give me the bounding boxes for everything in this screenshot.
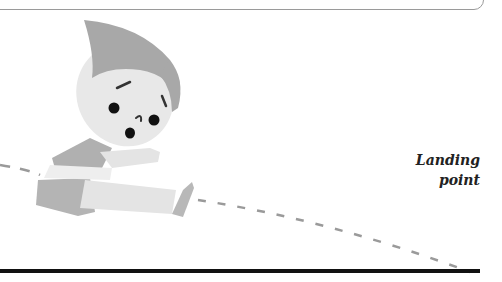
landing-diagram: Landing point: [0, 0, 502, 282]
shoe-icon: [172, 182, 194, 217]
legs: [80, 180, 176, 214]
ground-line: [0, 269, 480, 273]
eye-left: [109, 103, 120, 114]
trajectory-dashed-line-right: [198, 200, 470, 272]
eye-right: [149, 115, 160, 126]
label-line-1: Landing: [416, 150, 480, 170]
trajectory-dashed-line: [0, 165, 40, 175]
label-line-2: point: [416, 170, 480, 190]
jumping-child-illustration: [0, 0, 502, 282]
landing-point-label: Landing point: [416, 150, 480, 190]
mouth: [125, 128, 135, 139]
